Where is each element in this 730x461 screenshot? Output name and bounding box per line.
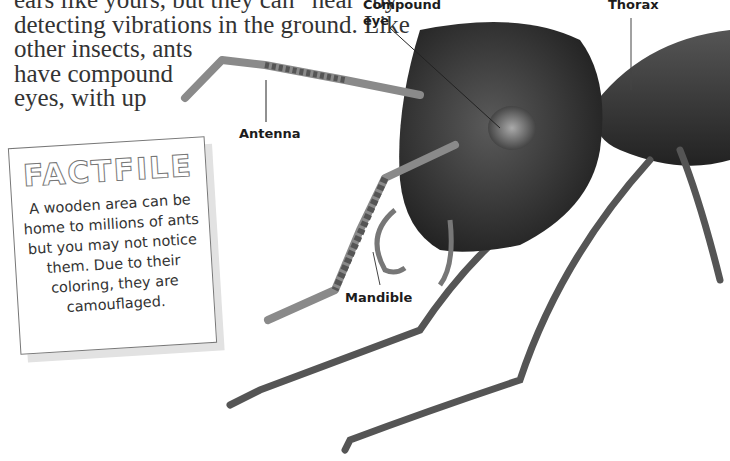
body-text-line: other insects, ants bbox=[14, 37, 410, 62]
thorax-label: Thorax bbox=[608, 0, 659, 13]
antenna-label: Antenna bbox=[239, 126, 301, 142]
ant-thorax bbox=[590, 30, 730, 166]
body-text-line: have compound bbox=[14, 62, 410, 87]
compound-eye-label: Compound eye bbox=[363, 0, 441, 29]
factfile-body: A wooden area can be home to millions of… bbox=[12, 188, 214, 320]
body-text: ears like yours, but they can “hear” by … bbox=[14, 0, 410, 111]
ant-compound-eye bbox=[488, 106, 536, 150]
mandible-label: Mandible bbox=[345, 290, 412, 306]
ant-leg-rear bbox=[680, 150, 720, 280]
factfile-box: FACTFILE A wooden area can be home to mi… bbox=[8, 136, 217, 355]
factfile-title: FACTFILE bbox=[10, 147, 207, 194]
body-text-line: detecting vibrations in the ground. Like bbox=[14, 13, 410, 38]
body-text-line: eyes, with up bbox=[14, 86, 410, 111]
compound-eye-label-line1: Compound bbox=[363, 0, 441, 13]
compound-eye-label-line2: eye bbox=[363, 13, 441, 29]
ant-mandible bbox=[377, 210, 405, 272]
